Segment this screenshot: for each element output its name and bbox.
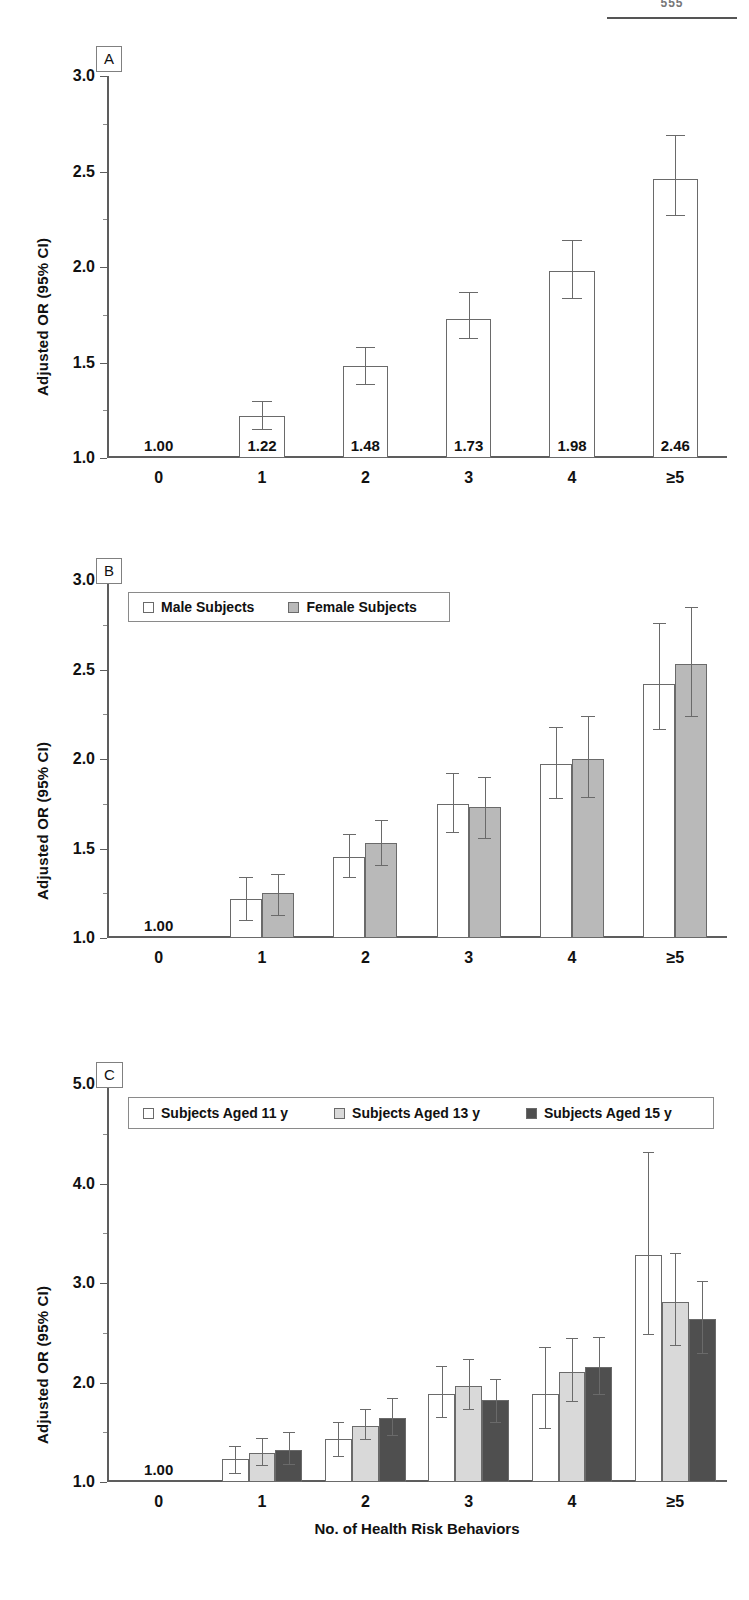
x-axis-tick-label: 2 xyxy=(361,469,370,487)
y-axis-tick xyxy=(100,1283,107,1284)
y-axis-minor-tick xyxy=(103,1333,107,1334)
error-bar-line xyxy=(338,1422,339,1456)
panel-b-legend: Male SubjectsFemale Subjects xyxy=(128,592,450,622)
error-bar-line xyxy=(648,1152,649,1334)
panel-a-plot-area: 1.01.52.02.53.001234≥51.001.221.481.731.… xyxy=(107,76,727,458)
y-axis-minor-tick xyxy=(103,804,107,805)
error-bar-cap-upper xyxy=(229,1446,240,1447)
y-axis-tick-label: 1.5 xyxy=(73,354,95,372)
error-bar-line xyxy=(289,1432,290,1464)
panel-b-plot-area: 1.01.52.02.53.001234≥51.00 xyxy=(107,580,727,938)
error-bar-cap-lower xyxy=(685,716,698,717)
y-axis-minor-tick xyxy=(103,219,107,220)
x-axis-tick-label: 0 xyxy=(154,469,163,487)
bar-value-label: 1.48 xyxy=(351,437,380,454)
error-bar-cap-upper xyxy=(549,727,562,728)
legend-label: Subjects Aged 11 y xyxy=(161,1105,288,1121)
error-bar-cap-upper xyxy=(459,292,478,293)
error-bar-line xyxy=(262,401,263,430)
error-bar-line xyxy=(588,716,589,797)
y-axis-tick-label: 2.0 xyxy=(73,750,95,768)
y-axis-tick-label: 1.0 xyxy=(73,929,95,947)
legend-label: Subjects Aged 13 y xyxy=(352,1105,480,1121)
error-bar-cap-lower xyxy=(229,1473,240,1474)
error-bar-line xyxy=(262,1438,263,1465)
y-axis-tick-label: 2.0 xyxy=(73,1374,95,1392)
error-bar-cap-lower xyxy=(387,1435,398,1436)
x-axis-tick-label: 0 xyxy=(154,949,163,967)
legend-swatch xyxy=(526,1108,537,1119)
panel-b-y-axis-title: Adjusted OR (95% CI) xyxy=(34,742,51,900)
y-axis-tick xyxy=(100,172,107,173)
y-axis-tick-label: 2.5 xyxy=(73,163,95,181)
y-axis-minor-tick xyxy=(103,410,107,411)
y-axis-tick-label: 3.0 xyxy=(73,571,95,589)
error-bar-cap-lower xyxy=(333,1456,344,1457)
error-bar-cap-lower xyxy=(643,1334,654,1335)
x-axis-title: No. of Health Risk Behaviors xyxy=(107,1520,727,1537)
error-bar-line xyxy=(599,1337,600,1395)
error-bar-cap-upper xyxy=(643,1152,654,1153)
page-number: 555 xyxy=(607,0,737,10)
panel-c-y-axis xyxy=(107,1084,109,1482)
error-bar-cap-lower xyxy=(283,1464,294,1465)
legend-swatch xyxy=(334,1108,345,1119)
error-bar-cap-upper xyxy=(666,135,685,136)
y-axis-tick xyxy=(100,1482,107,1483)
reference-value-label: 1.00 xyxy=(144,917,173,934)
y-axis-tick-label: 1.0 xyxy=(73,449,95,467)
error-bar-cap-lower xyxy=(343,877,356,878)
legend-item: Male Subjects xyxy=(143,599,254,615)
x-axis-tick-label: 3 xyxy=(464,469,473,487)
error-bar-line xyxy=(496,1379,497,1423)
error-bar-cap-upper xyxy=(360,1409,371,1410)
error-bar-cap-lower xyxy=(271,915,284,916)
error-bar-line xyxy=(453,773,454,832)
legend-label: Male Subjects xyxy=(161,599,254,615)
error-bar-cap-upper xyxy=(478,777,491,778)
error-bar-cap-upper xyxy=(697,1281,708,1282)
y-axis-tick-label: 3.0 xyxy=(73,1274,95,1292)
error-bar-line xyxy=(675,1253,676,1345)
x-axis-tick-label: 3 xyxy=(464,949,473,967)
error-bar-cap-lower xyxy=(436,1417,447,1418)
panel-c-legend: Subjects Aged 11 ySubjects Aged 13 ySubj… xyxy=(128,1097,714,1129)
reference-value-label: 1.00 xyxy=(144,1461,173,1478)
figure-three-panel-odds-ratio: 555 A Adjusted OR (95% CI) 1.01.52.02.53… xyxy=(0,0,749,1600)
x-axis-tick-label: ≥5 xyxy=(666,469,684,487)
error-bar-cap-upper xyxy=(539,1347,550,1348)
y-axis-tick xyxy=(100,267,107,268)
y-axis-tick-label: 2.0 xyxy=(73,258,95,276)
error-bar-cap-upper xyxy=(562,240,581,241)
error-bar-cap-upper xyxy=(446,773,459,774)
bar-value-label: 1.00 xyxy=(144,437,173,454)
error-bar-cap-lower xyxy=(459,338,478,339)
error-bar-cap-lower xyxy=(670,1345,681,1346)
x-axis-tick-label: 4 xyxy=(568,469,577,487)
error-bar-cap-upper xyxy=(375,820,388,821)
y-axis-tick xyxy=(100,759,107,760)
error-bar-cap-upper xyxy=(387,1398,398,1399)
error-bar-cap-upper xyxy=(670,1253,681,1254)
error-bar-line xyxy=(702,1281,703,1353)
x-axis-tick-label: ≥5 xyxy=(666,1493,684,1511)
error-bar-cap-upper xyxy=(333,1422,344,1423)
error-bar-cap-upper xyxy=(256,1438,267,1439)
error-bar-cap-upper xyxy=(436,1366,447,1367)
error-bar-line xyxy=(556,727,557,799)
error-bar-cap-upper xyxy=(653,623,666,624)
error-bar-cap-lower xyxy=(581,797,594,798)
y-axis-minor-tick xyxy=(103,625,107,626)
panel-b-y-axis xyxy=(107,580,109,938)
bar-value-label: 1.98 xyxy=(557,437,586,454)
y-axis-tick xyxy=(100,76,107,77)
error-bar-cap-upper xyxy=(271,874,284,875)
error-bar-line xyxy=(392,1398,393,1435)
error-bar-line xyxy=(572,240,573,297)
error-bar-cap-upper xyxy=(252,401,271,402)
error-bar-cap-upper xyxy=(581,716,594,717)
error-bar-cap-upper xyxy=(463,1359,474,1360)
panel-b-x-axis xyxy=(107,936,727,938)
x-axis-tick-label: 1 xyxy=(258,949,267,967)
error-bar-line xyxy=(572,1338,573,1402)
